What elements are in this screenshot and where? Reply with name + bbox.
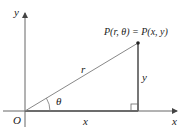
x-axis-label: x bbox=[172, 116, 177, 127]
angle-arc bbox=[46, 98, 50, 111]
angle-label: θ bbox=[56, 96, 61, 107]
point-label: P(r, θ) = P(x, y) bbox=[104, 27, 168, 37]
diagram-graphics bbox=[0, 0, 182, 133]
vertical-side-label: y bbox=[142, 72, 147, 83]
y-axis-label: y bbox=[14, 7, 19, 18]
origin-label: O bbox=[13, 115, 21, 126]
point-p bbox=[136, 41, 140, 45]
right-angle-marker bbox=[131, 104, 138, 111]
horizontal-side-label: x bbox=[83, 116, 88, 127]
hypotenuse-label: r bbox=[81, 64, 85, 75]
hypotenuse-r bbox=[25, 43, 138, 111]
polar-coordinates-diagram: y x O P(r, θ) = P(x, y) r y x θ bbox=[0, 0, 182, 133]
